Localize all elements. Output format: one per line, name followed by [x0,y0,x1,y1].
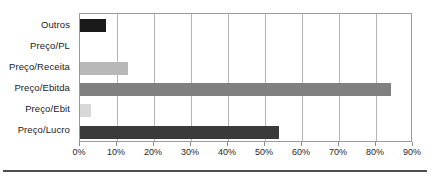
x-axis-label-10: 10% [107,147,125,157]
bar-row [80,58,411,79]
bar-preço-ebitda [80,83,391,96]
bar-preço-ebit [80,104,91,117]
x-axis-label-20: 20% [144,147,162,157]
x-axis-label-50: 50% [255,147,273,157]
x-tick-70 [338,142,339,146]
x-axis-label-30: 30% [181,147,199,157]
x-tick-80 [375,142,376,146]
bar-row [80,79,411,100]
x-axis-label-90: 90% [403,147,421,157]
bar-row [80,100,411,121]
x-tick-60 [301,142,302,146]
x-tick-40 [227,142,228,146]
bar-row [80,15,411,36]
y-axis-label-preco-receita: Preço/Receita [0,56,75,77]
bar-series [80,14,411,141]
x-tick-90 [412,142,413,146]
x-axis-labels: 0%10%20%30%40%50%60%70%80%90% [79,147,412,161]
x-axis-label-0: 0% [72,147,85,157]
x-axis-label-80: 80% [366,147,384,157]
x-axis-label-40: 40% [218,147,236,157]
y-axis-label-preco-pl: Preço/PL [0,35,75,56]
bar-preço-lucro [80,126,279,139]
bar-chart-figure: Outros Preço/PL Preço/Receita Preço/Ebit… [0,0,431,179]
x-axis-label-70: 70% [329,147,347,157]
plot-area [79,13,412,142]
x-tick-50 [264,142,265,146]
bar-row [80,121,411,142]
x-axis-label-60: 60% [292,147,310,157]
y-axis-label-preco-lucro: Preço/Lucro [0,119,75,140]
y-axis-label-preco-ebitda: Preço/Ebitda [0,77,75,98]
x-tick-0 [79,142,80,146]
bar-row [80,36,411,57]
x-tick-30 [190,142,191,146]
bar-outros [80,19,106,32]
x-tick-10 [116,142,117,146]
bar-preço-receita [80,62,128,75]
y-axis-label-preco-ebit: Preço/Ebit [0,98,75,119]
footer-divider [3,170,427,172]
x-tick-20 [153,142,154,146]
y-axis-labels: Outros Preço/PL Preço/Receita Preço/Ebit… [0,14,75,140]
y-axis-label-outros: Outros [0,14,75,35]
